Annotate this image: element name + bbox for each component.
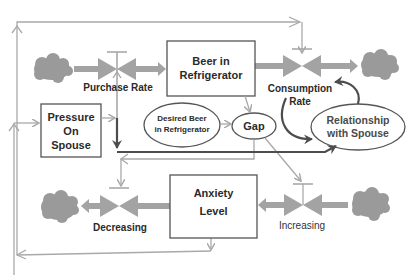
label-line: Rate — [265, 95, 335, 108]
label-line: Pressure — [41, 110, 101, 124]
relationship-with-spouse-label: Relationship with Spouse — [311, 114, 405, 140]
cloud-source-purchase-icon — [34, 53, 73, 83]
anxiety-level-label: Anxiety Level — [170, 186, 257, 218]
beer-in-refrigerator-label: Beer in Refrigerator — [167, 54, 255, 82]
label-line: with Spouse — [311, 127, 405, 140]
increasing-label: Increasing — [272, 220, 332, 231]
cloud-sink-decreasing-icon — [41, 190, 79, 223]
decreasing-valve-icon — [100, 188, 138, 217]
label-line: Relationship — [311, 114, 405, 127]
label-line: Anxiety — [170, 186, 257, 200]
cloud-sink-consumption-icon — [361, 49, 399, 80]
purchase-rate-label: Purchase Rate — [78, 82, 158, 93]
consumption-valve-icon — [283, 49, 321, 77]
label-line: Consumption — [265, 82, 335, 95]
pressure-on-spouse-label: Pressure On Spouse — [41, 110, 101, 152]
consumption-rate-label: Consumption Rate — [265, 82, 335, 108]
label-line: Level — [170, 204, 257, 218]
label-line: On — [41, 124, 101, 138]
desired-beer-label: Desired Beer in Refrigerator — [144, 113, 220, 135]
label-line: Refrigerator — [167, 68, 255, 82]
label-line: Spouse — [41, 138, 101, 152]
label-line: Beer in — [167, 54, 255, 68]
increasing-valve-icon — [284, 184, 322, 216]
cloud-source-increasing-icon — [352, 187, 390, 221]
label-line: in Refrigerator — [144, 124, 220, 135]
label-line: Desired Beer — [144, 113, 220, 124]
gap-label: Gap — [232, 119, 276, 133]
decreasing-label: Decreasing — [90, 222, 150, 233]
